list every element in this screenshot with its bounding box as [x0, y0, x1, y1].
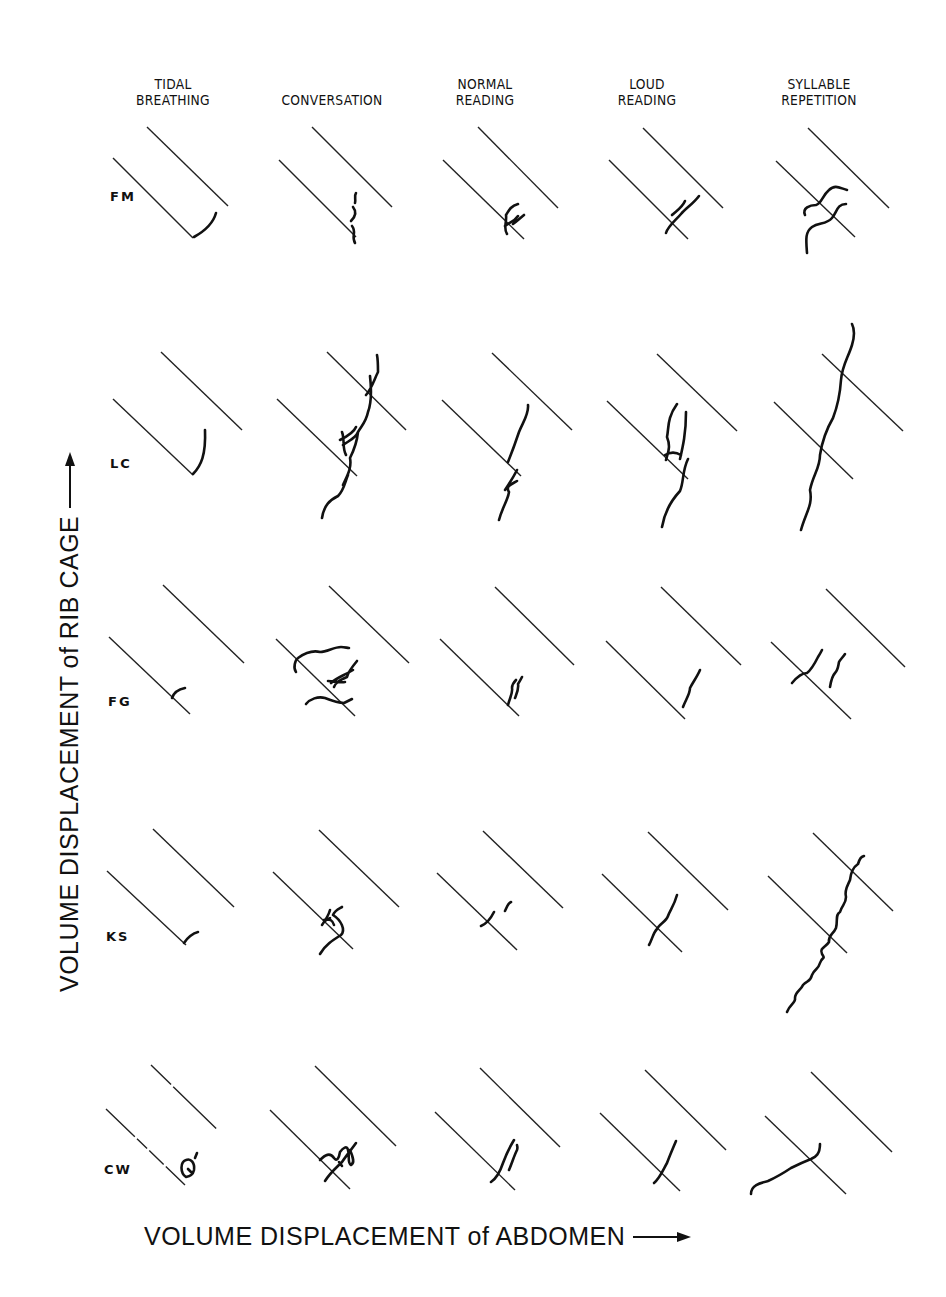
isovolume-lines	[106, 127, 905, 1194]
trace-fg-loud	[683, 670, 700, 707]
trace-fg-conversation	[295, 647, 357, 704]
trace-cw-syllable	[751, 1144, 820, 1194]
trace-lc-normal	[499, 405, 528, 520]
trace-fm-loud	[666, 196, 699, 233]
trace-fg-syllable	[792, 650, 845, 687]
trace-fg-normal	[508, 677, 522, 705]
trace-lc-tidal	[193, 430, 205, 474]
trace-cw-normal	[491, 1140, 517, 1182]
konno-mead-panels	[0, 0, 946, 1297]
trace-ks-conversation	[320, 907, 343, 954]
trace-ks-tidal	[184, 932, 198, 943]
trace-fm-syllable	[804, 187, 847, 253]
breathing-traces	[172, 187, 864, 1194]
trace-fg-tidal	[172, 688, 185, 698]
trace-ks-syllable	[787, 856, 864, 1012]
trace-fm-tidal	[194, 213, 216, 237]
trace-lc-syllable	[801, 324, 854, 530]
trace-lc-conversation	[322, 355, 378, 518]
trace-cw-tidal	[182, 1153, 198, 1177]
trace-lc-loud	[662, 404, 688, 527]
trace-ks-loud	[649, 895, 677, 945]
trace-cw-conversation	[320, 1143, 356, 1181]
trace-ks-normal	[481, 902, 511, 926]
